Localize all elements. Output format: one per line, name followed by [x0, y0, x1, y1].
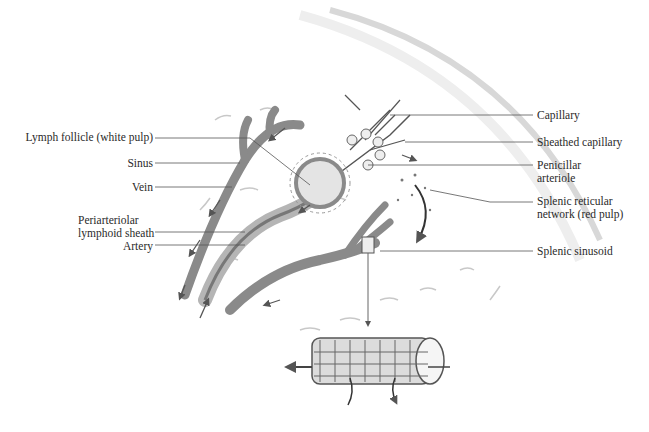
label-artery: Artery — [0, 240, 153, 253]
lymph-follicle — [296, 159, 344, 207]
label-sheathed-capillary: Sheathed capillary — [537, 136, 622, 149]
label-penicillar-line1: Penicillar — [537, 159, 581, 172]
spleen-diagram: Lymph follicle (white pulp) Sinus Vein P… — [0, 0, 649, 432]
label-sinus: Sinus — [0, 157, 153, 170]
label-capillary: Capillary — [537, 109, 580, 122]
label-splenic-sinusoid: Splenic sinusoid — [537, 245, 613, 258]
label-penicillar-line2: arteriole — [537, 172, 575, 185]
label-pals-line1: Periarteriolar — [78, 214, 139, 227]
label-red-pulp-line2: network (red pulp) — [537, 208, 623, 221]
label-lymph-follicle: Lymph follicle (white pulp) — [0, 131, 153, 144]
sinusoid-cylinder — [288, 338, 450, 405]
label-vein: Vein — [0, 181, 153, 194]
label-pals-line2: lymphoid sheath — [78, 227, 154, 240]
label-red-pulp-line1: Splenic reticular — [537, 195, 613, 208]
artery — [230, 243, 375, 310]
